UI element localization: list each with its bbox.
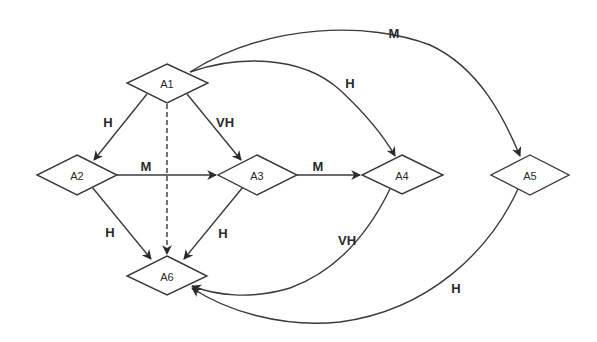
edge-label-a2-a6: H: [105, 225, 114, 240]
node-a4: A4: [362, 155, 443, 194]
edge-a2-a6: [92, 187, 151, 259]
node-label: A4: [395, 170, 408, 182]
edge-a3-a6: [184, 187, 243, 259]
edge-label-a1-a5: M: [389, 26, 400, 41]
edge-label-a4-a6: VH: [338, 233, 356, 248]
edge-a1-a5: [190, 30, 520, 156]
edge-label-a1-a3: VH: [216, 115, 234, 130]
node-label: A1: [160, 78, 173, 90]
edge-label-a3-a6: H: [218, 226, 227, 241]
node-a5: A5: [491, 155, 569, 195]
node-label: A2: [70, 170, 83, 182]
node-label: A5: [523, 170, 536, 182]
node-a3: A3: [218, 155, 297, 195]
node-label: A6: [160, 271, 173, 283]
edge-a5-a6: [192, 189, 518, 323]
edge-label-a5-a6: H: [451, 281, 460, 296]
edge-label-a1-a2: H: [103, 115, 112, 130]
node-a2: A2: [37, 155, 117, 195]
edge-a1-a4: [190, 61, 395, 156]
node-label: A3: [250, 170, 263, 182]
edge-a4-a6: [192, 189, 390, 295]
edge-label-a2-a3: M: [141, 159, 152, 174]
dependency-diagram: H VH H M M H M H VH H A1 A2 A3 A4 A5 A6: [0, 0, 597, 342]
edge-label-a3-a4: M: [313, 159, 324, 174]
edge-a1-a2: [94, 94, 147, 160]
edge-label-a1-a4: H: [345, 76, 354, 91]
